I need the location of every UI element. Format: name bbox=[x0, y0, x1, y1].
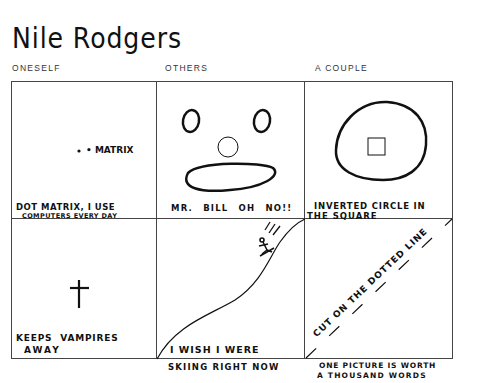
caption-others-row2: I WISH I WERE bbox=[170, 344, 260, 355]
grid-divider-vertical-2 bbox=[304, 81, 305, 359]
caption-others-row1: MR. BILL OH NO!! bbox=[171, 203, 292, 213]
caption-couple-row1-line2: THE SQUARE bbox=[307, 211, 378, 221]
page-title: Nile Rodgers bbox=[12, 22, 182, 55]
caption-oneself-row2-line2: AWAY bbox=[24, 345, 61, 355]
caption-couple-row2-line2: A THOUSAND WORDS bbox=[317, 371, 427, 380]
drawing-grid bbox=[11, 81, 453, 359]
column-header-others: OTHERS bbox=[165, 63, 208, 73]
matrix-label: • MATRIX bbox=[86, 145, 133, 155]
caption-oneself-row1: DOT MATRIX, I USE bbox=[16, 202, 115, 212]
caption-others-row2-line2: SKIING RIGHT NOW bbox=[168, 362, 280, 372]
caption-couple-row2: ONE PICTURE IS WORTH bbox=[319, 361, 436, 370]
column-header-a-couple: A COUPLE bbox=[315, 63, 368, 73]
caption-couple-row1: INVERTED CIRCLE IN bbox=[314, 201, 426, 211]
grid-divider-vertical-1 bbox=[156, 81, 157, 359]
caption-oneself-row2: KEEPS VAMPIRES bbox=[16, 333, 118, 343]
column-header-oneself: ONESELF bbox=[12, 63, 61, 73]
caption-oneself-row1-line2: COMPUTERS EVERY DAY bbox=[22, 212, 117, 220]
